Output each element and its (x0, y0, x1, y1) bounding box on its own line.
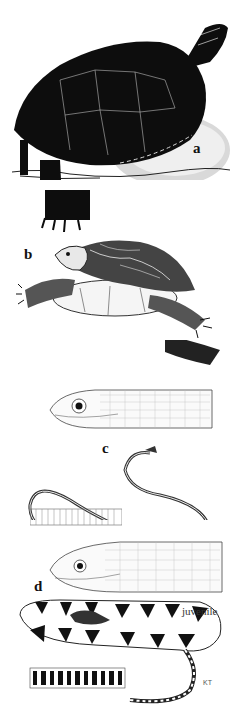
figure-label-d: d (34, 578, 42, 595)
artist-initials: KT (203, 679, 212, 686)
figure-c-snake: c (0, 340, 243, 520)
figure-label-c: c (102, 440, 109, 457)
figure-a-turtle: a (0, 0, 243, 180)
turtle-a-illustration (0, 0, 243, 180)
figure-d-snake: d juvenile KT (0, 530, 243, 721)
figure-label-a: a (193, 140, 201, 157)
snake-c-illustration (0, 340, 243, 520)
figure-b-turtle: b (0, 180, 243, 340)
ventral-scales-c (30, 507, 122, 527)
turtle-b-illustration (0, 180, 243, 340)
figure-label-b: b (24, 246, 32, 263)
juvenile-label: juvenile (182, 605, 217, 617)
snake-d-illustration (0, 530, 243, 721)
